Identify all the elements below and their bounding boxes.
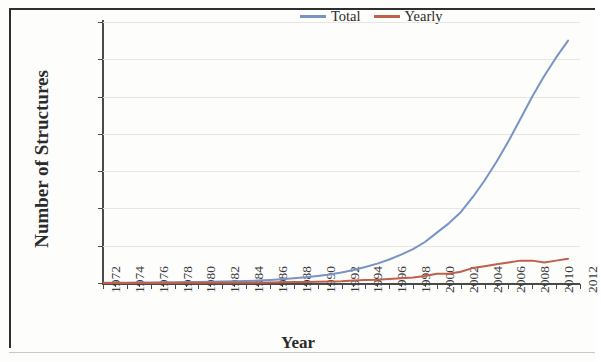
y-axis-title: Number of Structures xyxy=(31,44,53,274)
x-axis-title: Year xyxy=(0,333,596,353)
series-line-yearly xyxy=(103,259,568,283)
x-tick-mark xyxy=(580,284,581,289)
plot-area: 010000200003000040000500006000070000 197… xyxy=(103,22,580,283)
legend-swatch-yearly xyxy=(374,15,400,17)
x-tick-label: 2012 xyxy=(585,266,601,293)
legend-swatch-total xyxy=(300,15,326,17)
series-line-total xyxy=(103,41,568,283)
series-lines xyxy=(103,22,580,285)
